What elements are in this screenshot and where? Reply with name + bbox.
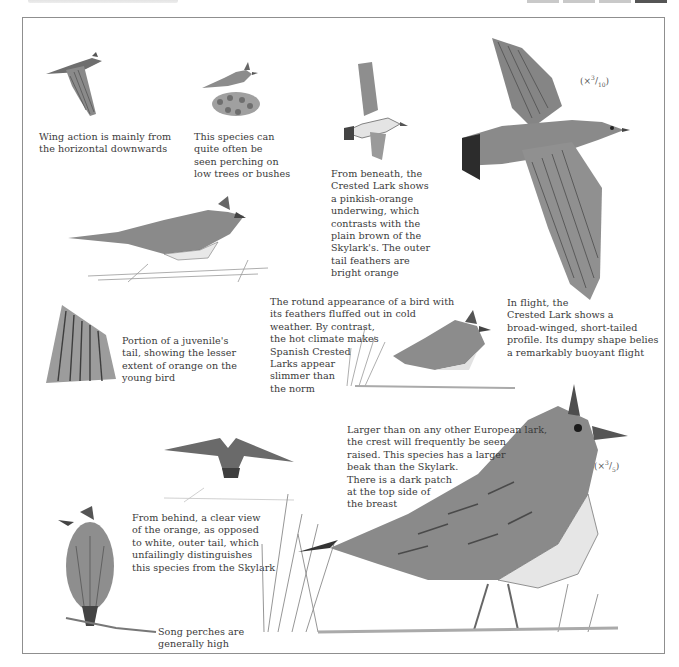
- caption-rotund: The rotund appearance of a bird with its…: [270, 296, 454, 395]
- flying-lark-small-illustration: [44, 52, 106, 118]
- section-tab[interactable]: [527, 0, 559, 3]
- section-tab[interactable]: [563, 0, 595, 3]
- section-tabs: [527, 0, 667, 3]
- caption-wing-action: Wing action is mainly from the horizonta…: [39, 131, 171, 156]
- section-tab[interactable]: [599, 0, 631, 3]
- caption-from-beneath: From beneath, the Crested Lark shows a p…: [331, 168, 430, 280]
- lark-from-beneath-illustration: [342, 60, 408, 162]
- caption-song-perches: Song perches are generally high: [158, 626, 244, 651]
- caption-larger: Larger than on any other European lark, …: [347, 424, 547, 511]
- caption-from-behind: From behind, a clear view of the orange,…: [132, 512, 275, 574]
- caption-in-flight: In flight, the Crested Lark shows a broa…: [507, 297, 658, 359]
- lark-on-ground-illustration: [68, 194, 272, 286]
- juvenile-tail-illustration: [46, 305, 118, 383]
- perched-scale-label: (×3/5): [594, 459, 619, 473]
- caption-juvenile-tail: Portion of a juvenile's tail, showing th…: [122, 335, 237, 385]
- page-title-strip: [28, 0, 178, 3]
- flight-scale-label: (×3/10): [580, 74, 609, 88]
- perched-lark-bush-illustration: [198, 56, 268, 120]
- caption-perching: This species can quite often be seen per…: [194, 131, 290, 181]
- section-tab-active[interactable]: [635, 0, 667, 3]
